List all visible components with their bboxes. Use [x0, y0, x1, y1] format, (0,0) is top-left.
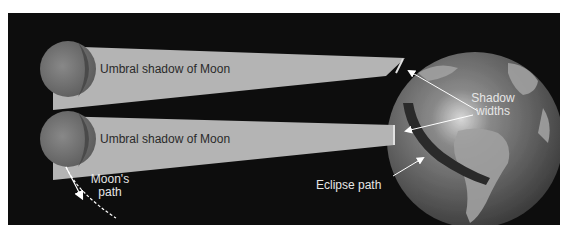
- label-shadow-bottom: Umbral shadow of Moon: [100, 133, 230, 146]
- moon-bottom: [40, 111, 96, 167]
- label-moons-path-line2: path: [90, 186, 130, 199]
- label-shadow-widths: Shadow widths: [468, 92, 518, 118]
- earth: [387, 52, 560, 225]
- label-eclipse-path: Eclipse path: [316, 179, 381, 192]
- umbral-shadow-cone-top: [53, 46, 405, 110]
- label-shadow-top: Umbral shadow of Moon: [100, 63, 230, 76]
- label-moons-path: Moon's path: [90, 173, 130, 199]
- label-shadow-widths-line2: widths: [468, 105, 518, 118]
- moon-top: [40, 41, 96, 97]
- diagram-panel: Umbral shadow of Moon Umbral shadow of M…: [8, 13, 560, 225]
- umbral-shadow-cone-bottom: [53, 116, 394, 180]
